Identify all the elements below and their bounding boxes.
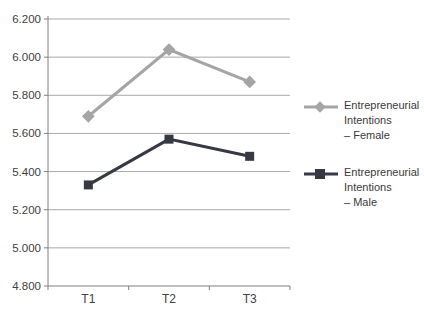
legend-marker-female-diamond-icon (303, 99, 339, 115)
data-point-diamond-female (243, 76, 256, 89)
line-chart: 4.8005.0005.2005.4005.6005.8006.0006.200… (0, 0, 424, 320)
legend-label-male-line2: Intentions (344, 180, 419, 195)
legend-label-male: Entrepreneurial Intentions – Male (344, 165, 419, 210)
data-point-square-male (165, 135, 174, 144)
y-tick-label: 6.000 (12, 51, 41, 63)
x-tick-label: T3 (243, 292, 257, 306)
legend-entry-female: Entrepreneurial Intentions – Female (303, 98, 419, 143)
x-tick-label: T1 (81, 292, 95, 306)
legend-marker-male-square-icon (303, 166, 339, 182)
y-tick-label: 5.800 (12, 89, 41, 101)
y-tick-label: 5.400 (12, 166, 41, 178)
legend-label-female: Entrepreneurial Intentions – Female (344, 98, 419, 143)
y-tick-label: 6.200 (12, 13, 41, 25)
legend-entry-male: Entrepreneurial Intentions – Male (303, 165, 419, 210)
legend-label-male-line3: – Male (344, 195, 419, 210)
legend-label-female-line2: Intentions (344, 113, 419, 128)
data-point-square-male (84, 180, 93, 189)
x-tick-label: T2 (162, 292, 176, 306)
plot-area: 4.8005.0005.2005.4005.6005.8006.0006.200… (0, 0, 424, 320)
square-icon (315, 169, 325, 179)
y-tick-label: 5.200 (12, 204, 41, 216)
series-line-female (88, 50, 249, 117)
series-line-male (88, 139, 249, 185)
y-tick-label: 4.800 (12, 280, 41, 292)
legend-label-female-line3: – Female (344, 128, 419, 143)
y-tick-label: 5.600 (12, 127, 41, 139)
y-tick-label: 5.000 (12, 242, 41, 254)
data-point-square-male (245, 152, 254, 161)
legend-label-male-line1: Entrepreneurial (344, 165, 419, 180)
diamond-icon (314, 101, 325, 112)
legend-label-female-line1: Entrepreneurial (344, 98, 419, 113)
